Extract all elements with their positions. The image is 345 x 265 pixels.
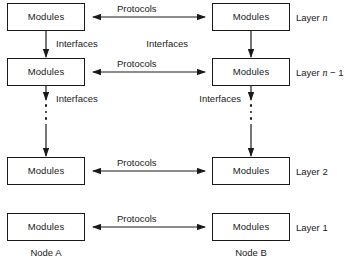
layered-protocol-diagram: Modules Modules Layer n Protocols Interf… (0, 0, 345, 265)
layer-label-n-minus-1: Layer n − 1 (296, 68, 344, 78)
layer-label-suffix: 2 (322, 166, 327, 177)
protocol-label-layer-1: Protocols (117, 214, 157, 224)
layer-label-suffix: 1 (322, 222, 327, 233)
layer-label-prefix: Layer (296, 12, 320, 23)
module-box-right-layer-2[interactable]: Modules (212, 157, 290, 185)
module-box-right-layer-n-minus-1[interactable]: Modules (212, 58, 290, 86)
node-label-a: Node A (7, 248, 85, 258)
layer-label-1: Layer 1 (296, 223, 328, 233)
interface-label-left-layer-n: Interfaces (56, 39, 98, 49)
ellipsis-dot (45, 104, 48, 107)
ellipsis-dot (250, 111, 253, 114)
ellipsis-dot (45, 111, 48, 114)
layer-label-n: Layer n (296, 13, 327, 23)
module-box-left-layer-n[interactable]: Modules (7, 3, 85, 31)
module-box-label: Modules (233, 222, 270, 232)
module-box-label: Modules (233, 12, 270, 22)
interface-label-right-layer-n: Interfaces (146, 39, 188, 49)
module-box-label: Modules (233, 166, 270, 176)
module-box-label: Modules (28, 67, 65, 77)
module-box-label: Modules (28, 166, 65, 176)
module-box-label: Modules (233, 67, 270, 77)
layer-label-prefix: Layer (296, 222, 320, 233)
layer-label-suffix: − 1 (327, 67, 343, 78)
ellipsis-dot (250, 117, 253, 120)
interface-label-right-layer-n-minus-1: Interfaces (199, 94, 241, 104)
module-box-label: Modules (28, 222, 65, 232)
module-box-right-layer-n[interactable]: Modules (212, 3, 290, 31)
protocol-label-layer-n-minus-1: Protocols (117, 59, 157, 69)
protocol-label-layer-2: Protocols (117, 158, 157, 168)
layer-label-variable: n (322, 12, 327, 23)
module-box-left-layer-2[interactable]: Modules (7, 157, 85, 185)
layer-label-prefix: Layer (296, 67, 320, 78)
ellipsis-dots-left (45, 104, 48, 120)
module-box-left-layer-1[interactable]: Modules (7, 213, 85, 241)
protocol-label-layer-n: Protocols (117, 4, 157, 14)
ellipsis-dots-right (250, 104, 253, 120)
module-box-label: Modules (28, 12, 65, 22)
ellipsis-dot (250, 104, 253, 107)
layer-label-prefix: Layer (296, 166, 320, 177)
interface-label-left-layer-n-minus-1: Interfaces (56, 94, 98, 104)
module-box-left-layer-n-minus-1[interactable]: Modules (7, 58, 85, 86)
layer-label-2: Layer 2 (296, 167, 328, 177)
module-box-right-layer-1[interactable]: Modules (212, 213, 290, 241)
node-label-b: Node B (212, 248, 290, 258)
ellipsis-dot (45, 117, 48, 120)
